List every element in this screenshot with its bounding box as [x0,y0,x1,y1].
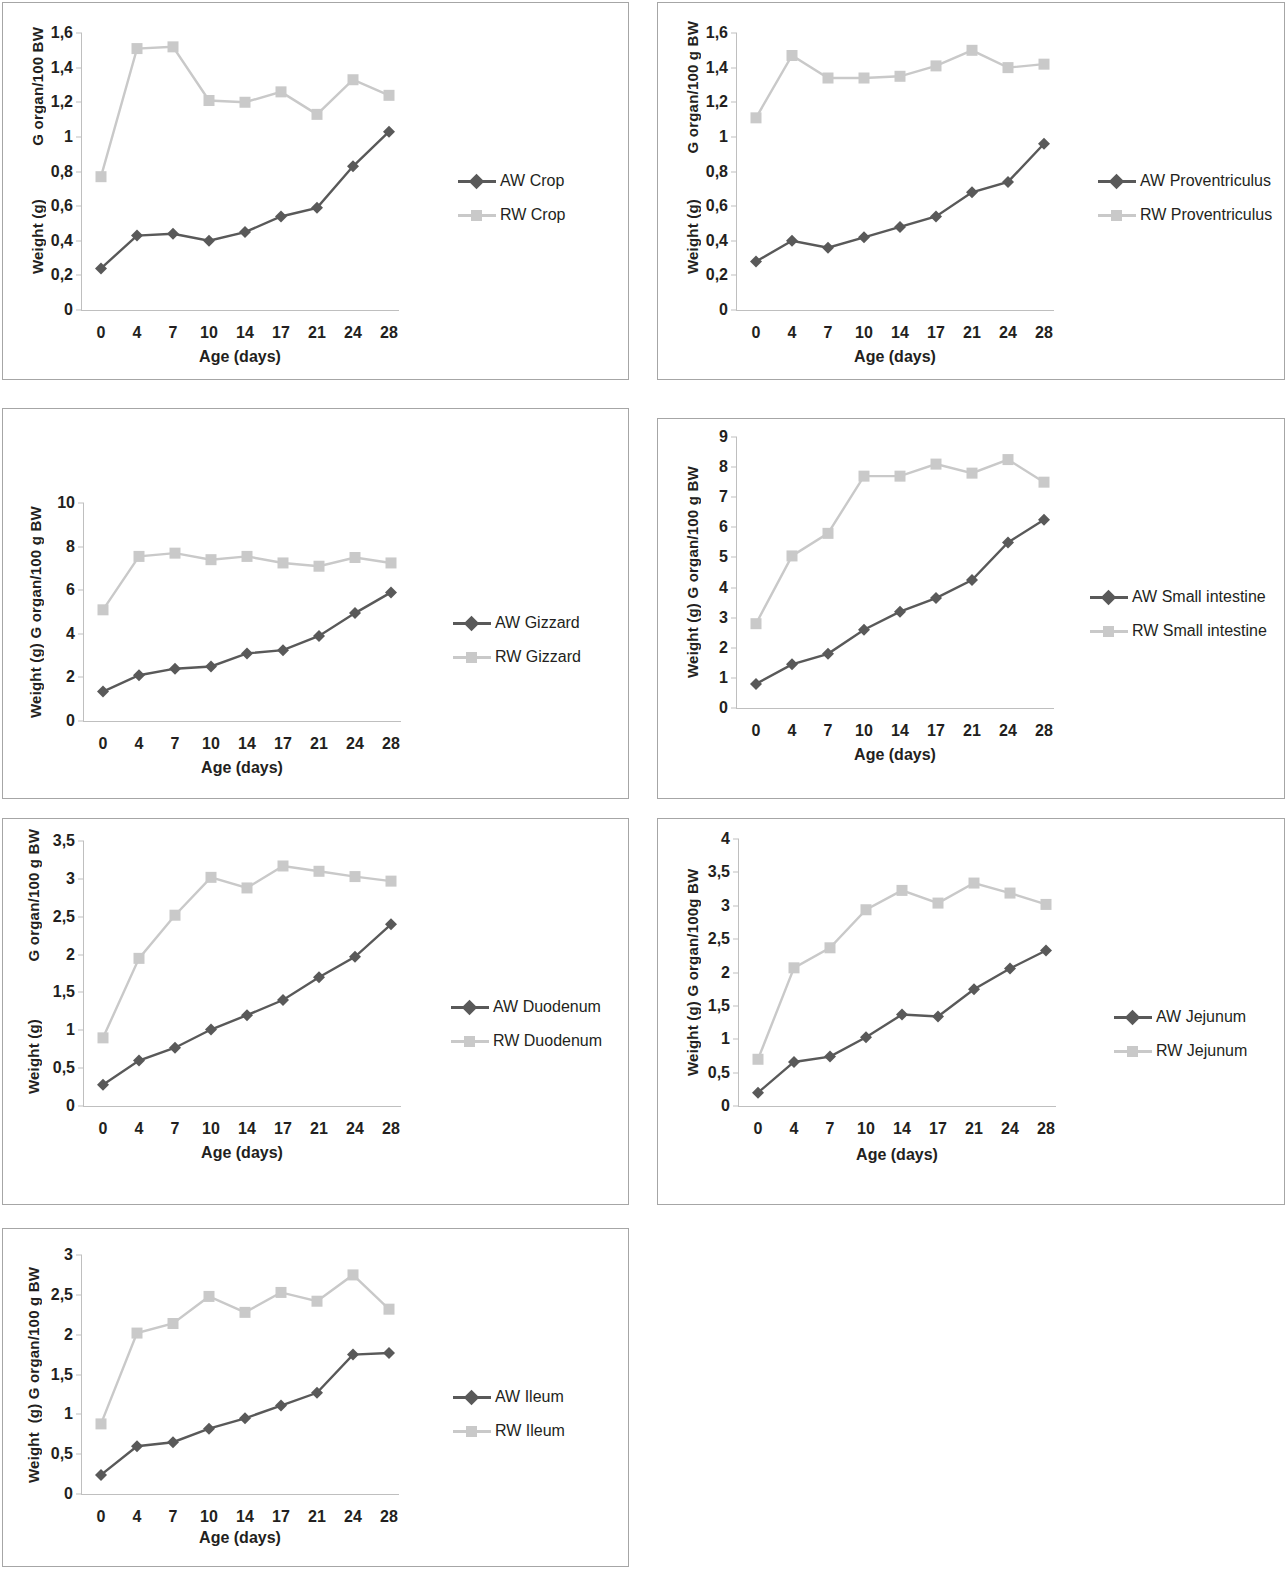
legend-item-aw[interactable]: AW Gizzard [453,615,581,631]
legend-label: AW Gizzard [495,615,580,631]
chart-ileum: Weight (g) G organ/100 g BW00,511,522,53… [3,1229,628,1566]
data-point [242,551,253,562]
diamond-marker-icon [451,1000,489,1014]
legend: AW JejunumRW Jejunum [1114,1009,1247,1077]
data-point [1041,899,1052,910]
data-point [205,661,217,673]
chart-jejunum: Weight (g) G organ/100g BW00,511,522,533… [658,819,1284,1204]
data-point [859,471,870,482]
data-point [278,557,289,568]
legend-label: AW Proventriculus [1140,173,1271,189]
data-point [967,468,978,479]
data-point [751,112,762,123]
legend-item-aw[interactable]: AW Duodenum [451,999,602,1015]
data-point [933,898,944,909]
legend-item-rw[interactable]: RW Ileum [453,1423,565,1439]
data-point [98,604,109,615]
chart-panel-crop: Weight (g)G organ/100 BW00,20,40,60,811,… [2,2,629,380]
data-point [350,871,361,882]
data-point [860,1031,872,1043]
data-point [825,942,836,953]
data-point [858,231,870,243]
series-line-rw [101,1275,389,1424]
legend-item-rw[interactable]: RW Gizzard [453,649,581,665]
data-point [277,994,289,1006]
data-point [314,866,325,877]
chart-panel-jejunum: Weight (g) G organ/100g BW00,511,522,533… [657,818,1285,1205]
series-line-rw [101,47,389,177]
data-point [132,43,143,54]
data-point [384,90,395,101]
chart-proventriculus: Weight (g)G organ/100 g BW00,20,40,60,81… [658,3,1284,379]
square-marker-icon [451,1034,489,1048]
legend-label: RW Ileum [495,1423,565,1439]
data-point [384,1304,395,1315]
legend-label: AW Small intestine [1132,589,1266,605]
data-point [134,551,145,562]
square-marker-icon [1090,624,1128,638]
data-point [275,211,287,223]
legend-label: AW Jejunum [1156,1009,1246,1025]
square-marker-icon [1114,1044,1152,1058]
legend-item-aw[interactable]: AW Ileum [453,1389,565,1405]
legend: AW DuodenumRW Duodenum [451,999,602,1067]
series-line-rw [756,50,1044,118]
legend-item-rw[interactable]: RW Jejunum [1114,1043,1247,1059]
data-point [383,1347,395,1359]
data-point [96,171,107,182]
series-line-aw [756,144,1044,262]
data-point [1040,944,1052,956]
data-point [896,1009,908,1021]
data-point [931,459,942,470]
data-point [751,618,762,629]
data-point [350,552,361,563]
data-point [241,647,253,659]
data-point [789,962,800,973]
square-marker-icon [458,208,496,222]
data-point [133,669,145,681]
data-point [930,592,942,604]
data-point [787,550,798,561]
legend-label: AW Ileum [495,1389,564,1405]
data-point [386,876,397,887]
data-point [275,1400,287,1412]
data-point [1004,962,1016,974]
data-point [348,1269,359,1280]
data-point [277,644,289,656]
square-marker-icon [453,1424,491,1438]
data-point [134,953,145,964]
data-point [859,73,870,84]
data-point [897,885,908,896]
legend-item-aw[interactable]: AW Crop [458,173,566,189]
legend-item-aw[interactable]: AW Proventriculus [1098,173,1272,189]
legend-item-rw[interactable]: RW Small intestine [1090,623,1267,639]
data-point [168,1318,179,1329]
legend-label: RW Jejunum [1156,1043,1247,1059]
data-point [894,221,906,233]
data-point [167,1436,179,1448]
data-point [1003,454,1014,465]
legend: AW CropRW Crop [458,173,566,241]
legend-item-rw[interactable]: RW Crop [458,207,566,223]
legend-item-aw[interactable]: AW Jejunum [1114,1009,1247,1025]
data-point [168,41,179,52]
data-point [242,882,253,893]
data-point [895,471,906,482]
legend: AW IleumRW Ileum [453,1389,565,1457]
legend-item-rw[interactable]: RW Duodenum [451,1033,602,1049]
legend-item-rw[interactable]: RW Proventriculus [1098,207,1272,223]
legend-label: RW Crop [500,207,566,223]
data-point [786,235,798,247]
data-point [241,1009,253,1021]
data-point [786,658,798,670]
legend-label: RW Duodenum [493,1033,602,1049]
data-point [170,910,181,921]
diamond-marker-icon [1090,590,1128,604]
data-point [276,1287,287,1298]
diamond-marker-icon [453,1390,491,1404]
data-point [206,554,217,565]
data-point [894,606,906,618]
chart-panel-gizzard: Weight (g) G organ/100 g BW0246810047101… [2,408,629,799]
legend-item-aw[interactable]: AW Small intestine [1090,589,1267,605]
chart-panel-small-intestine: Weight (g) G organ/100 g BW0123456789047… [657,418,1285,799]
